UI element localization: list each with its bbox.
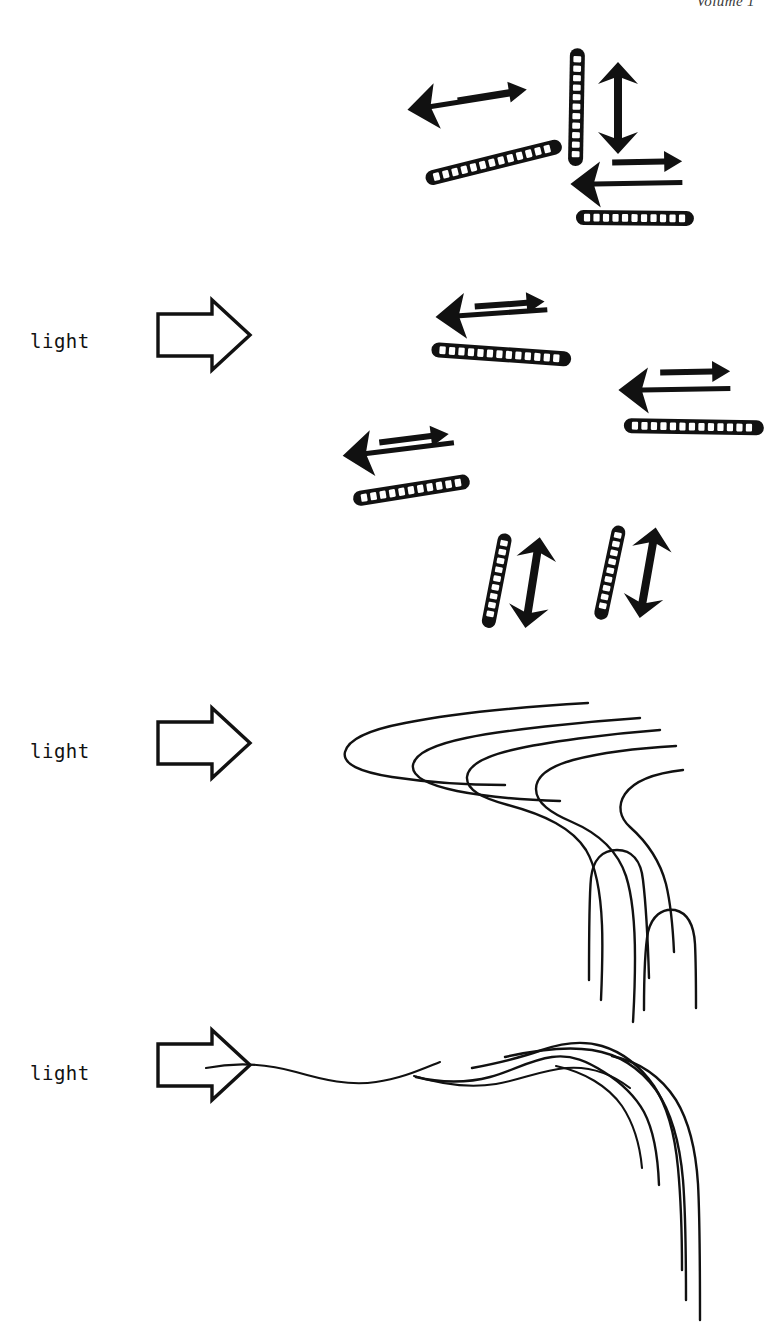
small-direction-arrow	[612, 151, 682, 173]
light-direction-outline-arrow[interactable]	[158, 300, 250, 370]
panel-1-group	[404, 48, 694, 226]
large-solid-arrowhead	[618, 366, 731, 414]
hairpin-curve-1	[345, 703, 588, 785]
hairpin-curve-2	[413, 718, 640, 801]
ladder-filament	[624, 418, 764, 435]
wavy-curve-2	[472, 1043, 682, 1270]
figure-page: Volume 1 light light light	[0, 0, 779, 1343]
hairpin-curve-5	[620, 770, 683, 952]
ladder-filament	[593, 524, 627, 621]
light-direction-outline-arrow[interactable]	[158, 1030, 250, 1100]
large-solid-arrowhead	[404, 70, 522, 133]
wavy-curve-5	[556, 1066, 642, 1168]
wavy-curve-4	[612, 1056, 700, 1320]
ladder-filament	[576, 210, 694, 226]
large-solid-arrowhead	[570, 160, 683, 208]
light-label-panel-4: light	[30, 1062, 90, 1084]
inner-u-loop-2	[644, 910, 696, 1010]
ladder-filament	[352, 474, 471, 507]
figure-canvas	[0, 0, 779, 1343]
small-direction-arrow	[456, 79, 528, 111]
small-direction-arrow	[660, 361, 730, 383]
double-headed-arrow	[598, 62, 638, 154]
hairpin-curve-4	[536, 746, 676, 1022]
light-label-panel-3: light	[30, 740, 90, 762]
light-direction-outline-arrow[interactable]	[158, 708, 250, 778]
large-solid-arrowhead	[434, 287, 549, 341]
double-headed-arrow	[506, 534, 560, 631]
ladder-filament	[424, 138, 563, 186]
small-direction-arrow	[378, 423, 450, 452]
small-direction-arrow	[474, 291, 545, 317]
panel-3-group	[158, 703, 696, 1022]
ladder-filament	[568, 48, 585, 166]
wavy-curve-1	[416, 1056, 659, 1185]
wavy-curve-7	[414, 1068, 630, 1088]
panel-4-group	[158, 1030, 700, 1320]
hairpin-curve-3	[467, 730, 660, 1000]
double-headed-arrow	[620, 524, 675, 622]
running-head: Volume 1	[0, 0, 779, 10]
wavy-curve-6	[206, 1062, 440, 1083]
inner-u-loop	[589, 850, 649, 980]
panel-2-group	[158, 287, 764, 631]
ladder-filament	[481, 532, 513, 629]
ladder-filament	[431, 342, 572, 367]
wavy-curve-3	[505, 1048, 686, 1300]
light-label-panel-2: light	[30, 330, 90, 352]
large-solid-arrowhead	[340, 420, 457, 479]
